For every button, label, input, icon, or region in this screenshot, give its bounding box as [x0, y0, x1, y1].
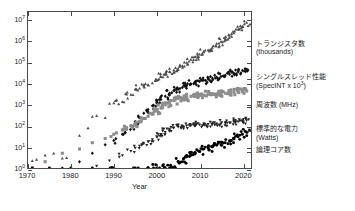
y-tick-right	[247, 127, 251, 128]
x-tick-label: 2020	[235, 171, 252, 180]
legend-label-primary: 論理コア数	[256, 146, 291, 153]
legend-label-primary: 標準的な電力	[256, 125, 298, 132]
y-tick-right	[247, 20, 251, 21]
y-tick-left	[28, 84, 32, 85]
x-tick-label: 2010	[192, 171, 209, 180]
y-tick-label: 107	[14, 16, 25, 23]
legend-item-transistors[interactable]: トランジスタ数(thousands)	[256, 40, 305, 57]
series-typical-power	[95, 117, 250, 168]
series-logical-cores	[31, 128, 251, 168]
y-tick-right	[247, 41, 251, 42]
x-tick-top	[244, 12, 245, 16]
x-tick-bot	[157, 164, 158, 168]
data-markers-layer	[28, 12, 251, 168]
x-tick-bot	[71, 164, 72, 168]
x-tick-bot	[114, 164, 115, 168]
x-tick-label: 1990	[105, 171, 122, 180]
x-tick-bot	[28, 164, 29, 168]
x-tick-label: 2000	[148, 171, 165, 180]
y-tick-left	[28, 127, 32, 128]
series-single-thread-performance	[61, 67, 250, 168]
y-tick-left	[28, 41, 32, 42]
y-tick-label: 105	[14, 58, 25, 65]
legend-tick-frequency	[247, 107, 251, 108]
y-tick-left	[28, 148, 32, 149]
x-tick-label: 1980	[62, 171, 79, 180]
y-tick-label: 101	[14, 144, 25, 151]
x-tick-label: 1970	[19, 171, 36, 180]
y-axis-labels: 100101102103104105106107	[0, 11, 25, 169]
legend-label-primary: 周波数 (MHz)	[256, 101, 298, 108]
chart-figure: 100101102103104105106107 197019801990200…	[0, 0, 355, 211]
legend-tick-typical-power	[247, 131, 251, 132]
legend-item-logical-cores[interactable]: 論理コア数	[256, 146, 291, 154]
legend-tick-transistors	[247, 46, 251, 47]
y-tick-right	[247, 84, 251, 85]
x-axis-title: Year	[27, 182, 252, 191]
y-tick-left	[28, 20, 32, 21]
y-tick-label: 104	[14, 80, 25, 87]
legend-label-primary: シングルスレッド性能	[256, 73, 326, 80]
legend-label-secondary: (Watts)	[256, 134, 298, 142]
x-tick-top	[71, 12, 72, 16]
x-tick-bot	[201, 164, 202, 168]
x-tick-top	[114, 12, 115, 16]
y-tick-label: 102	[14, 122, 25, 129]
legend-label-secondary: (thousands)	[256, 48, 305, 56]
x-tick-top	[157, 12, 158, 16]
legend-label-primary: トランジスタ数	[256, 40, 305, 47]
legend-item-single-thread-performance[interactable]: シングルスレッド性能(SpecINT x 103)	[256, 73, 326, 90]
y-tick-label: 106	[14, 37, 25, 44]
y-tick-label: 103	[14, 101, 25, 108]
plot-area	[27, 11, 252, 169]
y-tick-left	[28, 105, 32, 106]
legend-item-frequency[interactable]: 周波数 (MHz)	[256, 101, 298, 109]
y-tick-left	[28, 63, 32, 64]
y-tick-right	[247, 63, 251, 64]
legend-item-typical-power[interactable]: 標準的な電力(Watts)	[256, 125, 298, 142]
legend: トランジスタ数(thousands)シングルスレッド性能(SpecINT x 1…	[256, 11, 355, 169]
legend-label-secondary: (SpecINT x 103)	[256, 82, 326, 90]
x-tick-bot	[244, 164, 245, 168]
x-tick-top	[201, 12, 202, 16]
y-tick-right	[247, 148, 251, 149]
legend-tick-logical-cores	[247, 152, 251, 153]
x-tick-top	[28, 12, 29, 16]
legend-tick-single-thread-performance	[247, 79, 251, 80]
series-frequency	[31, 87, 248, 168]
